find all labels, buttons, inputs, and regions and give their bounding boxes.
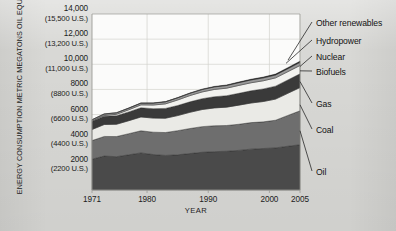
series-label-biofuels: Biofuels — [316, 67, 346, 77]
leader-line-oil — [300, 131, 312, 171]
x-tick-label: 1980 — [138, 195, 156, 204]
figure-panel: ENERGY CONSUMPTION METRIC MEGATONS OIL E… — [0, 0, 396, 231]
y-tick-value: 4000 — [70, 130, 88, 139]
y-tick-label: 2000(2200 U.S.) — [51, 155, 88, 174]
series-label-hydropower: Hydropower — [316, 36, 361, 46]
y-tick-value: 2000 — [70, 155, 88, 164]
y-tick-label: 8000(8800 U.S.) — [51, 79, 88, 98]
y-tick-us-value: (13,200 U.S.) — [45, 39, 88, 49]
x-tick-label: 2005 — [291, 195, 309, 204]
x-tick-label: 2000 — [260, 195, 278, 204]
y-tick-us-value: (6600 U.S.) — [51, 114, 88, 124]
leader-line-nuclear — [300, 56, 312, 66]
series-label-oil: Oil — [316, 167, 326, 177]
y-tick-label: 4000(4400 U.S.) — [51, 130, 88, 149]
y-tick-us-value: (2200 U.S.) — [51, 164, 88, 174]
y-axis-title: ENERGY CONSUMPTION METRIC MEGATONS OIL E… — [16, 14, 25, 194]
leader-line-coal — [300, 105, 312, 129]
series-label-coal: Coal — [316, 125, 333, 135]
series-label-other-renewables: Other renewables — [316, 18, 382, 28]
series-label-gas: Gas — [316, 99, 331, 109]
y-tick-label: 12,000(13,200 U.S.) — [45, 29, 88, 48]
x-tick-label: 1971 — [83, 195, 101, 204]
x-axis-title: YEAR — [185, 206, 207, 215]
y-tick-value: 8000 — [70, 79, 88, 88]
series-label-nuclear: Nuclear — [316, 52, 345, 62]
y-tick-us-value: (15,500 U.S.) — [45, 14, 88, 24]
leader-line-gas — [300, 82, 312, 103]
x-tick-label: 1990 — [199, 195, 217, 204]
y-tick-value: 14,000 — [64, 4, 88, 13]
y-tick-label: 6000(6600 U.S.) — [51, 105, 88, 124]
y-tick-us-value: (11,000 U.S.) — [45, 64, 88, 74]
y-tick-label: 14,000(15,500 U.S.) — [45, 4, 88, 23]
y-tick-us-value: (4400 U.S.) — [51, 139, 88, 149]
y-tick-us-value: (8800 U.S.) — [51, 89, 88, 99]
y-tick-value: 6000 — [70, 105, 88, 114]
y-tick-value: 10,000 — [64, 54, 88, 63]
y-tick-value: 12,000 — [64, 29, 88, 38]
y-tick-label: 10,000(11,000 U.S.) — [45, 54, 88, 73]
